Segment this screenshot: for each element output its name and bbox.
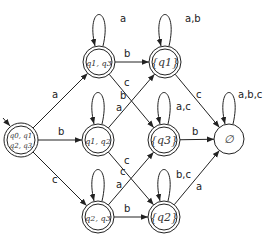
transition-s13-to-s13: [93, 15, 105, 47]
state-s3: {q3}: [148, 124, 180, 156]
transition-label: b: [124, 48, 130, 59]
start-arrow: [3, 118, 10, 126]
transition-s1-to-s1: [159, 15, 171, 47]
transition-s23-to-s23: [92, 170, 104, 202]
transition-label: b: [58, 126, 64, 137]
state-s2: {q2}: [148, 201, 180, 233]
state-s13: q1, q3: [83, 46, 115, 78]
transition-label: b: [120, 90, 126, 101]
transition-label: c: [120, 166, 126, 177]
state-label: q1, q3: [86, 59, 112, 68]
transition-label: a,b: [185, 13, 201, 24]
transition-empty-to-empty: [223, 93, 235, 125]
state-label: q1, q2: [85, 137, 111, 146]
state-s0: q0, q1q2, q3: [4, 123, 38, 157]
transition-label: a,b,c: [238, 89, 262, 100]
transition-label: a: [116, 179, 122, 190]
state-s23: q2, q3: [82, 201, 114, 233]
state-label: {q2}: [150, 211, 178, 224]
transition-s3-to-s3: [158, 93, 170, 125]
state-label-line1: q0, q1: [10, 132, 32, 140]
transition-label: a: [116, 102, 122, 113]
state-s1: {q1}: [149, 46, 181, 78]
state-label-line2: q2, q3: [10, 142, 33, 150]
transition-s3-to-empty: [180, 139, 214, 140]
transition-label: a: [120, 13, 126, 24]
transition-label: c: [196, 89, 202, 100]
state-label: {q1}: [151, 56, 179, 69]
dfa-diagram: q0, q1q2, q3q1, q3q1, q2q2, q3{q1}{q3}{q…: [0, 0, 271, 237]
transition-label: a,c: [176, 101, 191, 112]
transition-label: b,c: [176, 169, 191, 180]
transition-s0-to-s13: [33, 73, 88, 128]
transition-s12-to-s12: [92, 93, 104, 125]
state-empty: ∅: [214, 124, 244, 154]
transition-label: c: [124, 155, 130, 166]
state-label: q2, q3: [85, 214, 111, 223]
state-label: ∅: [224, 133, 234, 146]
transition-label: a: [52, 89, 58, 100]
state-s12: q1, q2: [82, 124, 114, 156]
transition-label: c: [124, 77, 130, 88]
transition-label: c: [52, 174, 58, 185]
transition-label: b: [192, 126, 198, 137]
transition-s2-to-s2: [158, 170, 170, 202]
transition-s0-to-s23: [33, 152, 87, 206]
transition-label: b: [124, 203, 130, 214]
transition-label: a: [196, 181, 202, 192]
state-label: {q3}: [150, 134, 178, 147]
